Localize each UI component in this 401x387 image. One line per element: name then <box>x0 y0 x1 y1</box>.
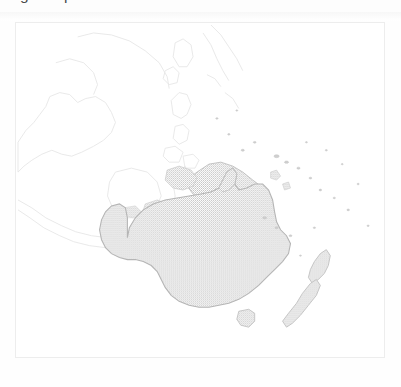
header-title: game production <box>20 0 138 3</box>
oceania-map <box>16 23 384 357</box>
header-divider <box>0 12 401 21</box>
header-line: game production <box>2 0 138 3</box>
tasmania <box>237 309 255 327</box>
map-panel[interactable] <box>15 22 385 358</box>
new-zealand <box>283 250 331 328</box>
